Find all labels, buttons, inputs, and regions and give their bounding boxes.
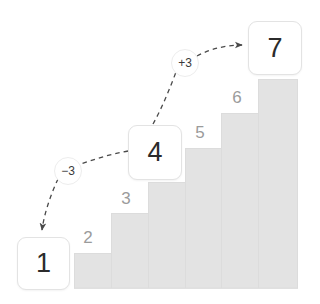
delta-badge-minus[interactable]: −3 <box>54 157 82 185</box>
bar-2 <box>75 254 112 289</box>
bar-3 <box>112 214 149 289</box>
bar-5 <box>186 149 222 289</box>
bar-label-3: 3 <box>116 190 136 207</box>
bar-4 <box>149 183 186 289</box>
delta-badge-plus[interactable]: +3 <box>171 49 199 77</box>
bar-7 <box>259 80 298 289</box>
arrow-head-up-to-seven <box>197 45 242 56</box>
bar-label-2: 2 <box>78 229 98 246</box>
bar-6 <box>222 114 259 289</box>
bar-label-5: 5 <box>190 124 210 141</box>
bar-group <box>75 80 298 289</box>
bar-label-6: 6 <box>227 89 247 106</box>
value-card-4[interactable]: 4 <box>128 125 182 180</box>
value-card-1[interactable]: 1 <box>17 237 70 290</box>
arrow-path-up-to-seven <box>153 72 176 124</box>
value-card-7[interactable]: 7 <box>248 21 302 75</box>
arrow-path-down-to-one <box>78 151 128 165</box>
arrow-head-down-to-one <box>42 179 58 230</box>
diagram-canvas: 2 3 5 6 1 4 7 −3 +3 <box>0 0 320 304</box>
